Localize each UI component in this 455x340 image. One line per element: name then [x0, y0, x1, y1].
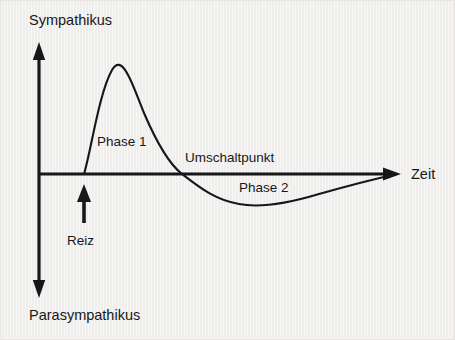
- axis-label-sympathikus: Sympathikus: [29, 13, 112, 28]
- autonomic-response-diagram: Sympathikus Parasympathikus Zeit Phase 1…: [0, 0, 455, 340]
- annotation-phase-1: Phase 1: [97, 135, 147, 149]
- annotation-phase-2: Phase 2: [239, 181, 289, 195]
- diagram-vector-layer: [1, 1, 455, 340]
- stimulus-arrow-head: [77, 184, 91, 202]
- vertical-axis-up-arrowhead: [33, 42, 45, 60]
- annotation-umschaltpunkt: Umschaltpunkt: [185, 151, 274, 165]
- vertical-axis-down-arrowhead: [33, 280, 45, 298]
- axis-label-parasympathikus: Parasympathikus: [29, 308, 140, 323]
- axis-label-zeit: Zeit: [411, 167, 435, 182]
- horizontal-axis-arrowhead: [383, 168, 401, 181]
- annotation-reiz: Reiz: [67, 234, 94, 248]
